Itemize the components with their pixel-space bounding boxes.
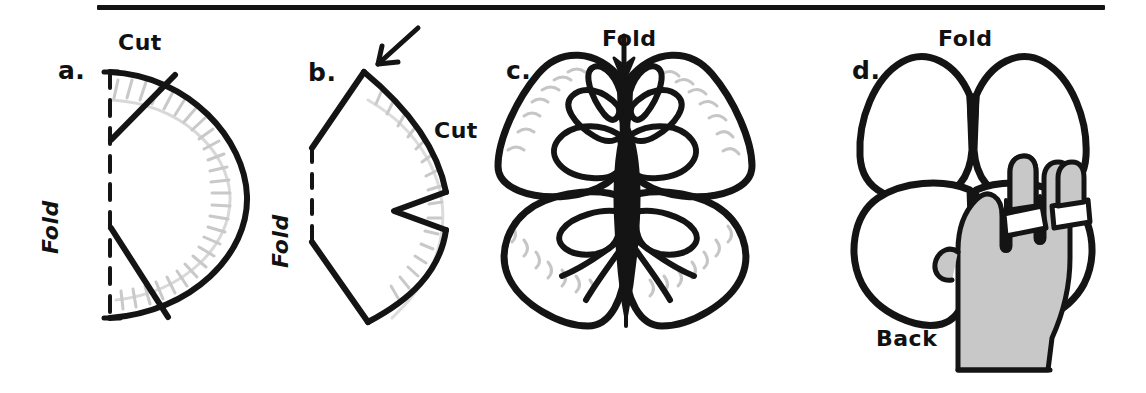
center-fold-notch-d <box>970 96 976 148</box>
label-cut-b: Cut <box>434 120 478 142</box>
label-fold-b: Fold <box>270 214 292 268</box>
panel-letter-d: d. <box>852 58 880 83</box>
label-fold-c: Fold <box>602 28 657 50</box>
label-fold-d: Fold <box>938 28 993 50</box>
panel-letter-c: c. <box>506 58 531 83</box>
wing-hatching-upper-right <box>662 71 739 154</box>
panel-b: Cut Fold b. <box>270 0 520 393</box>
finger-tip-middle <box>1058 162 1084 206</box>
panel-a: Cut Fold a. <box>40 0 290 393</box>
label-cut-a: Cut <box>118 32 162 54</box>
panel-letter-a: a. <box>58 58 85 83</box>
cut-line-lower <box>111 228 168 317</box>
label-fold-a: Fold <box>40 200 62 254</box>
edge-lower-right-b <box>368 230 446 322</box>
finger-tip-index <box>1010 156 1036 210</box>
plate-rim-hatching-lower <box>121 205 230 309</box>
label-back-d: Back <box>876 328 937 350</box>
figure-canvas: Cut Fold a. <box>0 0 1146 393</box>
panel-c-drawing <box>490 0 770 393</box>
panel-letter-b: b. <box>308 60 336 85</box>
edge-bottom-left-b <box>312 242 368 322</box>
panel-c: Fold c. <box>490 0 770 393</box>
panel-d: Fold Back d. <box>830 0 1120 393</box>
wing-hatching-lower-left <box>512 226 594 296</box>
notch-cut-b <box>394 192 446 230</box>
plate-rim-hatching-upper <box>114 80 230 193</box>
